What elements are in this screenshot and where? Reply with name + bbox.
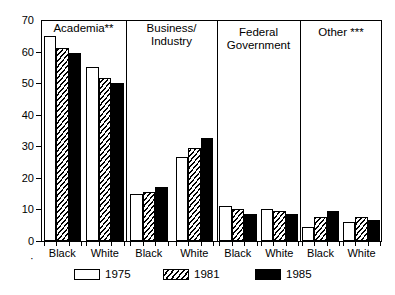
panel-title-line: Academia**: [41, 22, 126, 35]
x-tick-mark: [339, 242, 340, 246]
y-tick-label: 50: [0, 78, 34, 89]
x-tick-mark: [81, 242, 82, 246]
x-tick-mark: [155, 242, 156, 246]
x-tick-mark: [56, 242, 57, 246]
bar-1985-white: [368, 220, 381, 241]
bar-1985-black: [244, 214, 257, 241]
x-tick-mark: [327, 242, 328, 246]
y-tick-label: 0: [0, 236, 34, 247]
bar-1981-white: [188, 148, 201, 241]
bar-1981-white: [273, 211, 286, 241]
bar-1981-black: [314, 217, 327, 241]
bar-1985-black: [69, 53, 82, 241]
bar-1975-white: [261, 209, 274, 241]
x-tick-mark: [380, 242, 381, 246]
bar-1975-white: [343, 222, 356, 241]
bar-1981-black: [143, 192, 156, 241]
y-tick-label: 10: [0, 204, 34, 215]
bar-1985-white: [201, 138, 214, 241]
legend-label-1985: 1985: [286, 268, 312, 280]
x-tick-mark: [219, 242, 220, 246]
legend-label-1981: 1981: [194, 268, 220, 280]
x-tick-mark: [201, 242, 202, 246]
legend: 197519811985: [0, 268, 395, 290]
x-tick-mark: [298, 242, 299, 246]
legend-swatch-1985: [255, 269, 281, 280]
bar-1975-white: [86, 67, 99, 241]
panel-title-line: Other ***: [300, 26, 382, 39]
legend-item-1985: 1985: [255, 268, 312, 280]
x-tick-mark: [130, 242, 131, 246]
panel-title-3: Other ***: [300, 26, 382, 39]
x-tick-mark: [213, 242, 214, 246]
legend-item-1981: 1981: [163, 268, 220, 280]
bar-1985-white: [111, 83, 124, 241]
y-tick-label: 30: [0, 141, 34, 152]
legend-item-1975: 1975: [74, 268, 131, 280]
x-tick-mark: [232, 242, 233, 246]
bar-1975-black: [44, 36, 57, 241]
x-label-white: White: [334, 247, 390, 259]
x-tick-mark: [302, 242, 303, 246]
x-tick-mark: [111, 242, 112, 246]
y-tick-label: 70: [0, 15, 34, 26]
plot-top-border: [41, 20, 382, 21]
x-tick-mark: [44, 242, 45, 246]
bar-1975-black: [302, 227, 315, 241]
bar-1985-white: [286, 214, 299, 241]
bar-1981-black: [232, 209, 245, 241]
panel-title-line: Business/: [126, 22, 217, 35]
x-tick-mark: [355, 242, 356, 246]
panel-divider: [300, 20, 301, 242]
panel-title-1: Business/Industry: [126, 22, 217, 48]
y-tick-label: 60: [0, 46, 34, 57]
x-tick-mark: [261, 242, 262, 246]
panel-title-line: Federal: [217, 26, 300, 39]
x-tick-mark: [69, 242, 70, 246]
legend-label-1975: 1975: [105, 268, 131, 280]
y-tick-label: 40: [0, 109, 34, 120]
x-tick-mark: [286, 242, 287, 246]
x-tick-mark: [343, 242, 344, 246]
bar-1981-white: [355, 217, 368, 241]
bar-1981-black: [56, 48, 69, 241]
legend-swatch-1975: [74, 269, 100, 280]
bar-1985-black: [327, 211, 340, 241]
plot-right-border: [381, 20, 382, 242]
x-tick-mark: [99, 242, 100, 246]
panel-title-line: Industry: [126, 35, 217, 48]
y-axis-line: [41, 20, 42, 242]
x-tick-mark: [124, 242, 125, 246]
panel-title-0: Academia**: [41, 22, 126, 35]
x-tick-mark: [176, 242, 177, 246]
panel-divider: [126, 20, 127, 242]
bar-1975-black: [219, 206, 232, 241]
x-tick-mark: [188, 242, 189, 246]
x-tick-mark: [143, 242, 144, 246]
x-tick-mark: [86, 242, 87, 246]
bar-1975-white: [176, 157, 189, 241]
bar-chart: 706050403020100 Academia**Business/Indus…: [0, 0, 395, 295]
x-tick-mark: [168, 242, 169, 246]
bar-1981-white: [99, 78, 112, 241]
bar-1985-black: [155, 187, 168, 241]
x-tick-mark: [244, 242, 245, 246]
x-axis-line: [41, 241, 382, 242]
x-tick-mark: [273, 242, 274, 246]
x-tick-mark: [257, 242, 258, 246]
legend-swatch-1981: [163, 269, 189, 280]
x-tick-mark: [368, 242, 369, 246]
panel-title-2: FederalGovernment: [217, 26, 300, 52]
y-tick-label: 20: [0, 172, 34, 183]
bar-1975-black: [130, 194, 143, 241]
panel-divider: [217, 20, 218, 242]
x-axis-marker: ·: [30, 252, 34, 264]
x-tick-mark: [314, 242, 315, 246]
panel-title-line: Government: [217, 39, 300, 52]
y-axis: 706050403020100: [0, 0, 34, 295]
